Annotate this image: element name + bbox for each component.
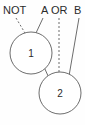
label-operand-a: A: [41, 4, 49, 16]
leader-line-not: [16, 18, 25, 33]
leader-line-a: [36, 18, 43, 33]
label-operand-b: B: [74, 4, 81, 16]
logic-diagram: NOT A OR B 1 2: [0, 0, 85, 125]
diagram-canvas: NOT A OR B 1 2: [0, 0, 85, 125]
label-operator-or: OR: [51, 4, 68, 16]
label-not: NOT: [3, 4, 27, 16]
node-label-1: 1: [28, 48, 34, 59]
node-label-2: 2: [57, 88, 63, 99]
leader-line-b: [69, 18, 79, 76]
